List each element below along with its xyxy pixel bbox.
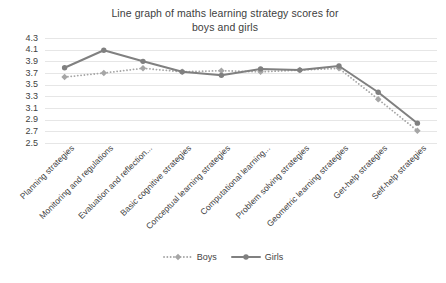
series-line-girls	[65, 50, 418, 123]
x-axis-tick-label: Problem solving strategies	[233, 143, 311, 221]
y-axis-tick-label: 3.9	[25, 57, 38, 66]
legend-item-boys[interactable]: Boys	[163, 252, 217, 262]
y-axis-tick-label: 2.9	[25, 115, 38, 124]
data-point-boys-0	[61, 74, 68, 81]
data-point-girls-1	[101, 48, 106, 53]
legend-item-girls[interactable]: Girls	[231, 252, 284, 262]
data-point-girls-4	[219, 73, 224, 78]
x-axis-tick-label: Monitoring and regulations	[37, 143, 115, 221]
data-point-girls-8	[376, 90, 381, 95]
y-axis-tick-label: 4.3	[25, 34, 38, 43]
chart-title: Line graph of maths learning strategy sc…	[60, 6, 390, 34]
data-point-boys-1	[101, 70, 108, 77]
chart-title-line-1: Line graph of maths learning strategy sc…	[60, 6, 390, 20]
x-axis-tick-label: Evaluation and reflection...	[76, 143, 154, 221]
legend-label: Boys	[197, 252, 217, 262]
legend-label: Girls	[265, 252, 284, 262]
y-axis-tick-label: 3.1	[25, 104, 38, 113]
y-axis-tick-label: 3.5	[25, 80, 38, 89]
chart-legend: BoysGirls	[0, 252, 446, 262]
x-axis-tick-label: Computational learning...	[198, 143, 272, 217]
data-point-girls-7	[336, 63, 341, 68]
x-axis: Planning strategiesMonitoring and regula…	[0, 143, 446, 243]
y-axis-tick-label: 3.3	[25, 92, 38, 101]
series-layer	[45, 38, 437, 143]
series-line-boys	[65, 68, 418, 130]
y-axis-tick-label: 3.7	[25, 69, 38, 78]
data-point-girls-2	[140, 59, 145, 64]
data-point-girls-6	[297, 67, 302, 72]
line-chart: Line graph of maths learning strategy sc…	[0, 0, 446, 283]
chart-title-line-2: boys and girls	[60, 20, 390, 34]
x-axis-tick-label: Basic cognitive strategies	[118, 143, 193, 218]
plot-area	[45, 38, 437, 143]
y-axis-tick-label: 2.7	[25, 127, 38, 136]
x-axis-tick-label: Geometric learning strategies	[264, 143, 350, 229]
data-point-boys-2	[140, 65, 147, 72]
data-point-girls-0	[62, 65, 67, 70]
data-point-boys-8	[375, 96, 382, 103]
legend-swatch-girls	[231, 252, 261, 262]
data-point-girls-3	[180, 69, 185, 74]
data-point-girls-9	[415, 120, 420, 125]
legend-swatch-boys	[163, 252, 193, 262]
y-axis-tick-label: 4.1	[25, 45, 38, 54]
data-point-girls-5	[258, 66, 263, 71]
y-axis: 4.34.13.93.73.53.33.12.92.72.5	[0, 32, 42, 150]
